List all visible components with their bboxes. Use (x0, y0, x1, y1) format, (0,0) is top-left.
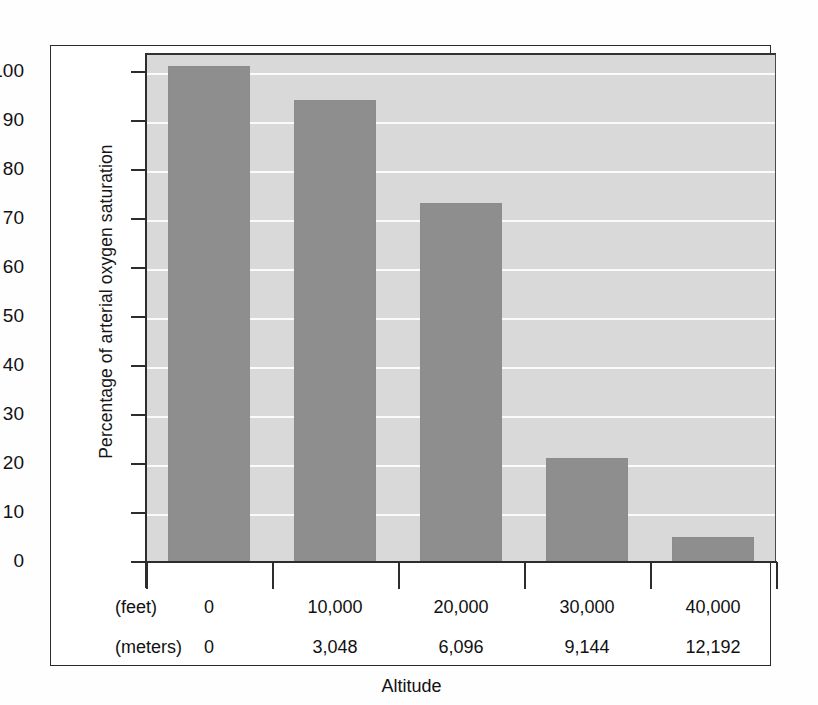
y-axis-tick (131, 267, 146, 269)
x-axis-tick (650, 562, 652, 589)
y-axis-tick-label: 60 (0, 257, 24, 276)
y-axis-line (145, 53, 147, 588)
y-axis-tick-label: 30 (0, 404, 24, 423)
bar (420, 203, 502, 561)
y-axis-tick (131, 120, 146, 122)
y-axis-tick-label: 10 (0, 502, 24, 521)
x-axis-tick (272, 562, 274, 589)
x-category-label-feet: 20,000 (391, 598, 531, 616)
y-axis-tick-label: 20 (0, 453, 24, 472)
y-axis-tick-label: 0 (0, 551, 24, 570)
x-category-label-feet: 40,000 (643, 598, 783, 616)
bar (294, 100, 376, 561)
x-category-label-meters: 12,192 (643, 638, 783, 656)
y-axis-tick (131, 463, 146, 465)
bar (546, 458, 628, 561)
y-axis-title: Percentage of arterial oxygen saturation (96, 92, 117, 512)
y-axis-tick-label: 50 (0, 306, 24, 325)
x-category-label-meters: 3,048 (265, 638, 405, 656)
y-axis-tick-label: 80 (0, 159, 24, 178)
y-axis-tick (131, 512, 146, 514)
x-category-label-meters: 6,096 (391, 638, 531, 656)
x-category-label-meters: 0 (139, 638, 279, 656)
y-axis-tick-label: 100 (0, 61, 24, 80)
bar (672, 537, 754, 562)
y-axis-tick (131, 365, 146, 367)
y-axis-tick-label: 90 (0, 110, 24, 129)
x-category-label-feet: 30,000 (517, 598, 657, 616)
y-axis-tick (131, 316, 146, 318)
x-axis-tick (146, 562, 148, 589)
y-axis-tick (131, 561, 146, 563)
y-axis-tick-label: 70 (0, 208, 24, 227)
y-axis-tick (131, 71, 146, 73)
x-axis-tick (398, 562, 400, 589)
x-category-label-meters: 9,144 (517, 638, 657, 656)
figure-container: Percentage of arterial oxygen saturation… (0, 0, 818, 705)
x-axis-title: Altitude (51, 676, 772, 697)
x-axis-line (131, 561, 777, 563)
bar (168, 66, 250, 561)
y-axis-tick-label: 40 (0, 355, 24, 374)
y-axis-tick (131, 169, 146, 171)
chart-frame: Percentage of arterial oxygen saturation… (50, 45, 771, 666)
y-axis-tick (131, 218, 146, 220)
x-axis-tick (776, 562, 778, 589)
x-category-label-feet: 0 (139, 598, 279, 616)
x-category-label-feet: 10,000 (265, 598, 405, 616)
y-axis-tick (131, 414, 146, 416)
x-axis-tick (524, 562, 526, 589)
plot-area (146, 53, 776, 562)
